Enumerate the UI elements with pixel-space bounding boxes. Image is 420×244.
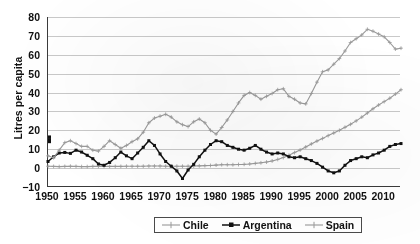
x-tick-1975: 1975 — [175, 190, 198, 202]
marker-argentina-1974 — [181, 177, 184, 180]
marker-argentina-2013 — [400, 142, 403, 145]
marker-chile-1982 — [225, 163, 229, 167]
marker-chile-1989 — [265, 160, 269, 164]
marker-spain-1955 — [74, 142, 78, 146]
marker-argentina-2012 — [394, 143, 397, 146]
marker-argentina-1956 — [80, 151, 83, 154]
legend-swatch-spain-icon — [305, 220, 323, 230]
marker-chile-1958 — [91, 165, 95, 169]
marker-argentina-1980 — [215, 139, 218, 142]
marker-argentina-1977 — [198, 155, 201, 158]
marker-argentina-2002 — [338, 169, 341, 172]
series-spain — [46, 27, 403, 159]
marker-argentina-1992 — [282, 152, 285, 155]
marker-chile-1990 — [270, 159, 274, 163]
marker-argentina-1993 — [287, 155, 290, 158]
marker-chile-1967 — [141, 164, 145, 168]
marker-argentina-2010 — [383, 149, 386, 152]
line-argentina — [48, 141, 401, 179]
marker-spain-1956 — [80, 144, 84, 148]
marker-argentina-1978 — [203, 149, 206, 152]
legend-item-spain[interactable]: Spain — [305, 219, 355, 231]
marker-argentina-1999 — [321, 166, 324, 169]
marker-argentina-undefined — [48, 138, 51, 141]
marker-argentina-1955 — [75, 149, 78, 152]
line-chile — [48, 90, 401, 167]
marker-chile-1956 — [80, 165, 84, 169]
marker-argentina-1961 — [108, 161, 111, 164]
marker-argentina-1981 — [220, 140, 223, 143]
marker-chile-2001 — [332, 131, 336, 135]
marker-argentina-1968 — [147, 139, 150, 142]
marker-spain-2009 — [377, 32, 381, 36]
marker-argentina-1982 — [226, 144, 229, 147]
marker-argentina-1950 — [47, 160, 50, 163]
legend-label-argentina: Argentina — [243, 219, 292, 231]
marker-argentina-1985 — [243, 149, 246, 152]
x-tick-1990: 1990 — [259, 190, 282, 202]
marker-argentina-1962 — [114, 156, 117, 159]
marker-argentina-1987 — [254, 144, 257, 147]
marker-chile-1977 — [197, 164, 201, 168]
x-tick-2000: 2000 — [315, 190, 338, 202]
x-tick-1955: 1955 — [63, 190, 86, 202]
marker-chile-1965 — [130, 164, 134, 168]
marker-chile-1994 — [293, 151, 297, 155]
x-tick-2005: 2005 — [343, 190, 366, 202]
marker-spain-1950 — [46, 154, 50, 158]
marker-chile-1952 — [57, 165, 61, 169]
marker-argentina-1994 — [293, 156, 296, 159]
marker-argentina-1990 — [271, 152, 274, 155]
marker-chile-1954 — [69, 164, 73, 168]
marker-chile-1991 — [276, 158, 280, 162]
marker-chile-1963 — [119, 165, 123, 169]
marker-chile-1953 — [63, 165, 67, 169]
marker-spain-1989 — [265, 94, 269, 98]
marker-chile-1971 — [164, 164, 168, 168]
legend-item-argentina[interactable]: Argentina — [222, 219, 292, 231]
marker-chile-1999 — [321, 137, 325, 141]
marker-chile-1955 — [74, 165, 78, 169]
marker-chile-1969 — [153, 164, 157, 168]
marker-argentina-1960 — [103, 164, 106, 167]
marker-argentina-1964 — [125, 154, 128, 157]
marker-chile-1984 — [237, 163, 241, 167]
marker-argentina-1986 — [248, 147, 251, 150]
marker-spain-1986 — [248, 91, 252, 95]
marker-argentina-1979 — [209, 143, 212, 146]
marker-argentina-1991 — [276, 152, 279, 155]
marker-spain-1971 — [164, 112, 168, 116]
x-tick-2010: 2010 — [372, 190, 395, 202]
series-layer — [48, 17, 401, 187]
marker-argentina-1970 — [159, 152, 162, 155]
marker-argentina-1971 — [164, 160, 167, 163]
marker-argentina-1972 — [170, 165, 173, 168]
marker-spain-1970 — [158, 114, 162, 118]
marker-chile-1985 — [242, 162, 246, 166]
marker-argentina-undefined — [48, 135, 51, 138]
marker-argentina-1983 — [231, 146, 234, 149]
marker-chile-1966 — [136, 164, 140, 168]
marker-chile-1992 — [281, 156, 285, 160]
marker-chile-1983 — [231, 163, 235, 167]
marker-chile-1986 — [248, 162, 252, 166]
marker-argentina-1959 — [97, 162, 100, 165]
legend-item-chile[interactable]: Chile — [162, 219, 209, 231]
marker-argentina-2009 — [377, 152, 380, 155]
marker-argentina-1963 — [119, 151, 122, 154]
series-argentina — [47, 135, 403, 180]
marker-argentina-1953 — [63, 151, 66, 154]
chart-legend: ChileArgentinaSpain — [154, 217, 362, 233]
marker-chile-1979 — [209, 164, 213, 168]
marker-argentina-1967 — [142, 146, 145, 149]
marker-argentina-1984 — [237, 148, 240, 151]
marker-argentina-2011 — [388, 145, 391, 148]
legend-label-spain: Spain — [326, 219, 355, 231]
marker-argentina-1989 — [265, 151, 268, 154]
marker-chile-1964 — [125, 164, 129, 168]
marker-chile-1974 — [181, 164, 185, 168]
marker-chile-1961 — [108, 165, 112, 169]
x-tick-1950: 1950 — [35, 190, 58, 202]
marker-chile-1973 — [175, 164, 179, 168]
marker-argentina-1998 — [315, 162, 318, 165]
